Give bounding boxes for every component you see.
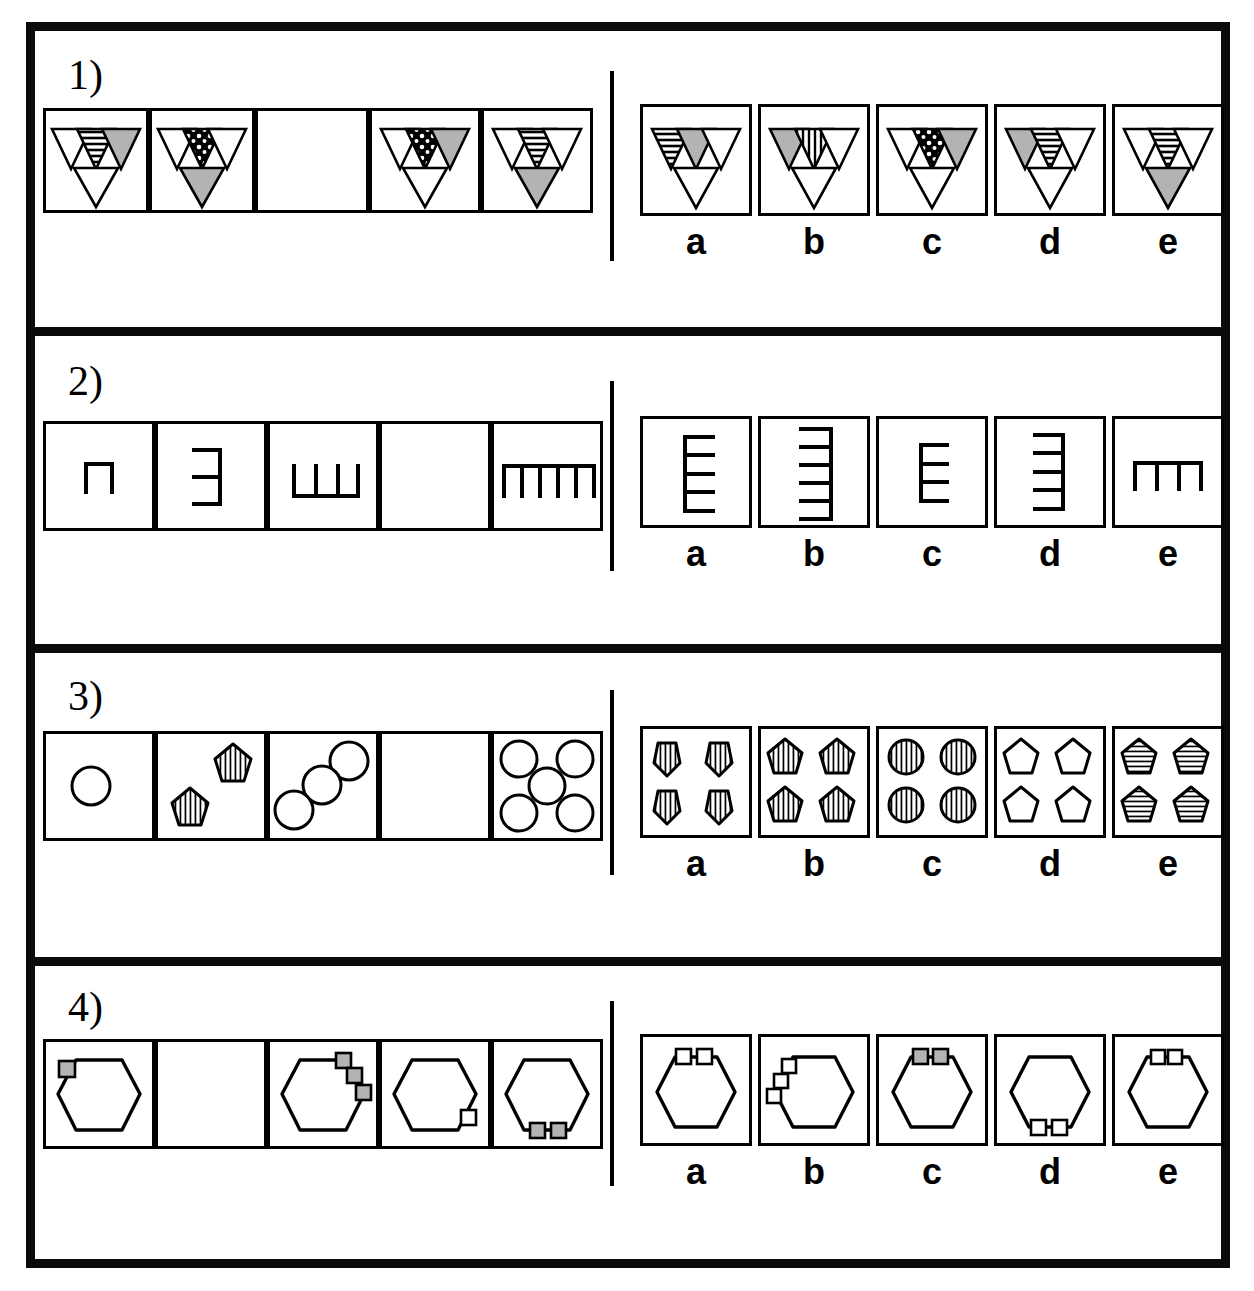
problem-1-option-d-label: d [994,224,1106,260]
problem-1-option-a-label: a [640,224,752,260]
problem-1-option-a[interactable] [640,104,752,216]
problem-1-stem-cell-4[interactable] [369,108,481,213]
problem-3-stem-cell-2[interactable] [155,731,267,841]
problem-3-option-a-label: a [640,846,752,882]
problem-3-option-d[interactable] [994,726,1106,838]
problem-1-option-d[interactable] [994,104,1106,216]
problem-3-option-b-label: b [758,846,870,882]
problem-3: 3) [35,653,1221,957]
problem-3-option-c-label: c [876,846,988,882]
problem-2-stem-cell-3[interactable] [267,421,379,531]
problem-3-option-e[interactable] [1112,726,1224,838]
problem-3-stem-cell-5[interactable] [491,731,603,841]
problem-4-option-a[interactable] [640,1034,752,1146]
problem-4-divider [610,1001,614,1186]
problem-2-divider [610,381,614,571]
panel-separator-2 [35,644,1221,653]
problem-2: 2) [35,336,1221,644]
problem-2-stem-cell-1[interactable] [43,421,155,531]
problem-1-option-c-label: c [876,224,988,260]
problem-2-stem-cell-4-blank[interactable] [379,421,491,531]
problem-4-stem-cell-3[interactable] [267,1039,379,1149]
panel-separator-3 [35,957,1221,966]
problem-3-divider [610,690,614,875]
problem-4: 4) [35,966,1221,1266]
problem-4-option-b-label: b [758,1154,870,1190]
problem-4-option-e[interactable] [1112,1034,1224,1146]
problem-2-stem-cell-5[interactable] [491,421,603,531]
problem-1-stem-cell-3-blank[interactable] [255,108,369,213]
problem-1-stem-cell-1[interactable] [43,108,149,213]
problem-3-number: 3) [68,675,103,717]
problem-3-option-d-label: d [994,846,1106,882]
problem-2-option-e-label: e [1112,536,1224,572]
problem-4-number: 4) [68,986,103,1028]
problem-3-option-c[interactable] [876,726,988,838]
problem-2-option-c[interactable] [876,416,988,528]
problem-2-option-d-label: d [994,536,1106,572]
problem-3-option-b[interactable] [758,726,870,838]
problem-2-option-d[interactable] [994,416,1106,528]
problem-4-option-c-label: c [876,1154,988,1190]
problem-1: 1) [35,31,1221,327]
problem-4-stem-cell-5[interactable] [491,1039,603,1149]
problem-2-stem-cell-2[interactable] [155,421,267,531]
problem-3-stem-cell-4-blank[interactable] [379,731,491,841]
problem-4-stem-cell-1[interactable] [43,1039,155,1149]
problem-1-option-e[interactable] [1112,104,1224,216]
problem-1-option-c[interactable] [876,104,988,216]
puzzle-sheet: 1) [0,0,1254,1291]
problem-4-option-d-label: d [994,1154,1106,1190]
problem-4-stem-cell-4[interactable] [379,1039,491,1149]
problem-1-option-b-label: b [758,224,870,260]
problem-1-number: 1) [68,54,103,96]
problem-2-option-e[interactable] [1112,416,1224,528]
problem-3-stem-cell-3[interactable] [267,731,379,841]
problem-1-option-e-label: e [1112,224,1224,260]
problem-1-stem-cell-5[interactable] [481,108,593,213]
problem-2-option-c-label: c [876,536,988,572]
problem-3-stem-cell-1[interactable] [43,731,155,841]
problem-2-number: 2) [68,360,103,402]
problem-1-divider [610,71,614,261]
problem-4-option-a-label: a [640,1154,752,1190]
problem-2-option-a[interactable] [640,416,752,528]
problem-2-option-a-label: a [640,536,752,572]
problem-1-option-b[interactable] [758,104,870,216]
problem-3-option-a[interactable] [640,726,752,838]
panel-separator-1 [35,327,1221,336]
problem-2-option-b[interactable] [758,416,870,528]
problem-4-option-b[interactable] [758,1034,870,1146]
problem-1-stem-cell-2[interactable] [149,108,255,213]
problem-2-option-b-label: b [758,536,870,572]
problem-4-option-e-label: e [1112,1154,1224,1190]
problem-4-stem-cell-2-blank[interactable] [155,1039,267,1149]
problem-3-option-e-label: e [1112,846,1224,882]
problem-4-option-c[interactable] [876,1034,988,1146]
problem-4-option-d[interactable] [994,1034,1106,1146]
